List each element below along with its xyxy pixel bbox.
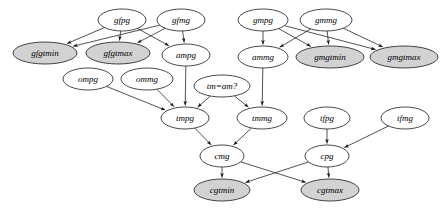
node-label-ammg: ammg xyxy=(252,52,274,62)
node-label-ommg: ommg xyxy=(136,74,158,84)
edge-gfpg-to-gfgtmin xyxy=(67,28,104,44)
node-label-tmeqam: tm=am? xyxy=(207,81,238,91)
edge-ompg-to-tmpg xyxy=(106,86,165,110)
node-cpg[interactable]: cpg xyxy=(305,145,349,167)
node-gmgtmin[interactable]: gmgtmin xyxy=(296,46,364,68)
node-tfpg[interactable]: tfpg xyxy=(304,107,350,129)
node-label-cgtmax: cgtmax xyxy=(317,185,343,195)
node-tfmg[interactable]: tfmg xyxy=(381,107,429,129)
node-tmpg[interactable]: tmpg xyxy=(161,107,209,129)
edge-ommg-to-tmpg xyxy=(157,89,174,107)
node-ampg[interactable]: ampg xyxy=(162,44,210,66)
node-label-tmpg: tmpg xyxy=(176,113,195,123)
node-label-gfmg: gfmg xyxy=(172,15,191,25)
node-tmeqam[interactable]: tm=am? xyxy=(194,75,250,97)
node-ompg[interactable]: ompg xyxy=(63,68,113,90)
edge-gmmg-to-gmgtmin xyxy=(327,31,328,45)
edge-gfpg-to-gfgtmax xyxy=(120,31,121,41)
node-label-cmg: cmg xyxy=(215,151,230,161)
edge-gmmg-to-gmgtmax xyxy=(343,28,383,47)
node-label-gmgtmax: gmgtmax xyxy=(388,52,421,62)
node-label-tfpg: tfpg xyxy=(320,113,335,123)
node-label-tfmg: tfmg xyxy=(397,113,414,123)
edge-cpg-to-cgtmax xyxy=(328,167,329,178)
node-gfgtmin[interactable]: gfgtmin xyxy=(13,42,77,64)
node-label-cpg: cpg xyxy=(321,151,334,161)
node-gfpg[interactable]: gfpg xyxy=(98,9,146,31)
edge-cmg-to-cgtmax xyxy=(241,162,306,183)
node-gfgtmax[interactable]: gfgtmax xyxy=(86,42,150,64)
node-cmg[interactable]: cmg xyxy=(200,145,244,167)
node-gmpg[interactable]: gmpg xyxy=(238,9,288,31)
node-label-tmmg: tmmg xyxy=(252,113,272,123)
node-label-ompg: ompg xyxy=(78,74,98,84)
graph-diagram: gfpggfmggfgtmingfgtmaxampggmpggmmgammggm… xyxy=(0,0,440,213)
node-cgtmax[interactable]: cgtmax xyxy=(301,179,359,201)
node-ommg[interactable]: ommg xyxy=(121,68,173,90)
edge-ammg-to-tmmg xyxy=(262,68,263,106)
node-label-cgtmin: cgtmin xyxy=(210,185,235,195)
node-ammg[interactable]: ammg xyxy=(238,46,288,68)
node-layer: gfpggfmggfgtmingfgtmaxampggmpggmmgammggm… xyxy=(13,9,438,201)
node-label-gmmg: gmmg xyxy=(315,15,337,25)
node-label-gmgtmin: gmgtmin xyxy=(314,52,346,62)
edge-ampg-to-tmpg xyxy=(185,66,186,106)
edge-cpg-to-cgtmin xyxy=(245,162,308,182)
node-label-gmpg: gmpg xyxy=(253,15,273,25)
node-gfmg[interactable]: gfmg xyxy=(157,9,205,31)
edge-gfmg-to-ampg xyxy=(183,31,185,43)
node-cgtmin[interactable]: cgtmin xyxy=(194,179,250,201)
node-gmgtmax[interactable]: gmgtmax xyxy=(370,46,438,68)
edge-gfpg-to-ampg xyxy=(137,28,169,45)
edge-tmeqam-to-tmpg xyxy=(198,96,211,107)
node-tmmg[interactable]: tmmg xyxy=(237,107,287,129)
edge-tfmg-to-cpg xyxy=(344,126,388,148)
graph-canvas: gfpggfmggfgtmingfgtmaxampggmpggmmgammggm… xyxy=(0,0,440,213)
edge-tmmg-to-cmg xyxy=(233,128,251,145)
node-label-gfgtmin: gfgtmin xyxy=(31,48,59,58)
node-label-ampg: ampg xyxy=(176,50,196,60)
node-label-gfgtmax: gfgtmax xyxy=(104,48,133,58)
node-label-gfpg: gfpg xyxy=(114,15,131,25)
node-gmmg[interactable]: gmmg xyxy=(300,9,352,31)
edge-tmeqam-to-tmmg xyxy=(234,96,248,107)
edge-tmpg-to-cmg xyxy=(195,128,211,145)
